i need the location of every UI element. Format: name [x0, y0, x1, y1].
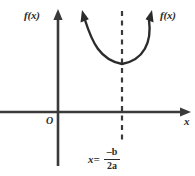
- formula-numerator: –b: [104, 147, 121, 159]
- y-axis: [53, 9, 62, 166]
- parabola-curve: [81, 10, 154, 64]
- parabola-left-arrowhead-icon: [81, 10, 89, 23]
- parabola-right-arrowhead-icon: [146, 10, 154, 23]
- formula-fraction: –b 2a: [104, 147, 121, 171]
- parabola-path: [85, 20, 150, 64]
- y-axis-function-label: f(x): [24, 10, 40, 21]
- x-axis: [0, 107, 191, 116]
- curve-function-label: f(x): [160, 10, 176, 21]
- x-axis-label: x: [184, 116, 190, 127]
- y-axis-arrowhead-icon: [53, 9, 62, 20]
- formula-denominator: 2a: [104, 159, 120, 172]
- axis-of-symmetry-formula: x= –b 2a: [88, 147, 120, 171]
- origin-label: O: [46, 116, 53, 126]
- parabola-figure: f(x) f(x) x O x= –b 2a: [0, 0, 195, 176]
- formula-lhs: x=: [88, 153, 100, 165]
